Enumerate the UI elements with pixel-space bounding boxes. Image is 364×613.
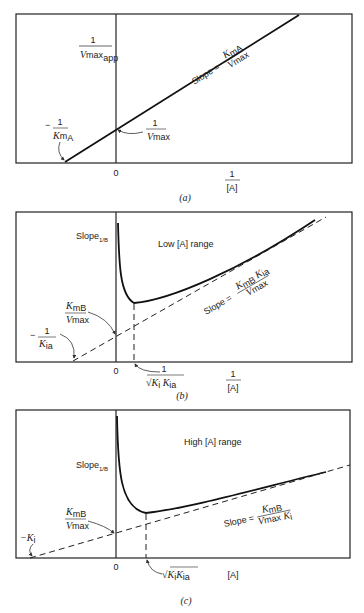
- svg-text:Vmaxapp: Vmaxapp: [80, 49, 118, 63]
- panel-c: Slope1/B High [A] range Slope = KmB Vmax…: [16, 410, 350, 607]
- panel-b-ylabel: Slope1/B: [76, 231, 108, 243]
- panel-b-x-zero: 0: [113, 366, 118, 376]
- svg-text:1: 1: [161, 364, 166, 374]
- panel-c-caption: (c): [180, 595, 192, 607]
- svg-text:√Ki Kia: √Ki Kia: [146, 377, 176, 390]
- svg-text:1: 1: [57, 117, 62, 127]
- panel-c-frame: [16, 410, 350, 558]
- panel-c-ylabel: Slope1/B: [76, 460, 108, 472]
- panel-b-caption: (b): [176, 390, 188, 402]
- panel-c-y-intercept-label: KmB Vmax: [65, 506, 114, 533]
- svg-text:1: 1: [44, 326, 49, 336]
- svg-text:1: 1: [90, 35, 95, 45]
- panel-b-min-label: 1 √Ki Kia: [135, 364, 184, 390]
- svg-text:Vmax: Vmax: [66, 314, 90, 325]
- panel-b-title: Low [A] range: [158, 239, 214, 249]
- svg-text:KmA: KmA: [52, 130, 73, 143]
- panel-b-curve: [118, 220, 315, 303]
- svg-text:Slope =: Slope =: [190, 62, 221, 87]
- panel-a-x-zero: 0: [113, 168, 118, 178]
- panel-b-frame: [16, 212, 352, 362]
- svg-text:Kia: Kia: [38, 338, 53, 351]
- svg-text:Vmax: Vmax: [66, 520, 90, 531]
- svg-text:−Ki: −Ki: [20, 532, 35, 545]
- panel-b-y-intercept-label: KmB Vmax: [65, 300, 115, 334]
- svg-text:KmB: KmB: [65, 506, 86, 519]
- svg-text:Slope =: Slope =: [202, 293, 234, 317]
- svg-text:KmB: KmB: [65, 300, 86, 313]
- svg-text:√KiKia: √KiKia: [162, 569, 190, 582]
- panel-a: 1 Vmaxapp Slope = KmA Vmax − 1 KmA 1 Vma…: [16, 14, 352, 204]
- panel-c-curve: [117, 416, 326, 513]
- panel-b: Slope1/B Low [A] range Slope = KmB Kia V…: [16, 212, 352, 402]
- panel-c-slope-label: Slope = KmB Vmax Ki: [221, 498, 293, 536]
- panel-b-x-intercept-label: − 1 Kia: [30, 326, 74, 358]
- panel-b-slope-label: Slope = KmB Kia Vmax: [199, 264, 276, 321]
- svg-text:[A]: [A]: [227, 383, 238, 393]
- panel-a-line: [65, 15, 299, 162]
- svg-text:1: 1: [152, 118, 157, 128]
- panel-a-ylabel: 1 Vmaxapp: [79, 35, 118, 63]
- panel-c-min-label: √KiKia: [147, 560, 198, 582]
- panel-c-x-intercept-label: −Ki: [20, 532, 35, 556]
- svg-text:−: −: [30, 330, 35, 340]
- panel-c-x-zero: 0: [113, 562, 118, 572]
- svg-text:Slope =: Slope =: [223, 513, 255, 529]
- svg-text:1: 1: [230, 369, 235, 379]
- svg-text:1: 1: [229, 169, 234, 179]
- panel-a-caption: (a): [179, 192, 191, 204]
- panel-a-x-intercept-label: − 1 KmA: [45, 117, 73, 160]
- panel-a-xlabel: 1 [A]: [225, 169, 240, 193]
- svg-text:−: −: [45, 120, 50, 130]
- panel-a-y-intercept-label: 1 Vmax: [118, 118, 171, 142]
- panel-c-xlabel: [A]: [227, 570, 238, 580]
- panel-b-xlabel: 1 [A]: [226, 369, 241, 393]
- panel-c-title: High [A] range: [184, 437, 242, 447]
- svg-text:Vmax: Vmax: [147, 131, 171, 142]
- figure: 1 Vmaxapp Slope = KmA Vmax − 1 KmA 1 Vma…: [0, 0, 364, 613]
- svg-text:[A]: [A]: [226, 183, 237, 193]
